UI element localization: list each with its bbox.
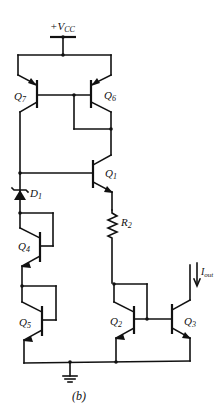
circuit-diagram: +VCC Q7 Q6 Q1 (0, 0, 223, 414)
transistor-q4: Q4 (18, 213, 53, 286)
figure-caption: (b) (72, 389, 86, 403)
svg-text:Q2: Q2 (110, 315, 122, 329)
ground-icon (63, 362, 77, 382)
svg-text:Q6: Q6 (104, 89, 116, 103)
svg-text:Q3: Q3 (184, 315, 196, 329)
svg-text:D1: D1 (29, 187, 42, 201)
svg-text:Q5: Q5 (19, 316, 31, 330)
zener-d1: D1 (12, 174, 42, 213)
svg-text:+VCC: +VCC (50, 20, 75, 34)
transistor-q1: Q1 (93, 155, 117, 210)
ground-rail (24, 361, 190, 363)
svg-text:Iout: Iout (200, 266, 214, 279)
svg-text:Q1: Q1 (105, 167, 117, 181)
transistor-q5: Q5 (19, 286, 56, 363)
transistor-q7: Q7 (14, 55, 37, 174)
transistor-q6: Q6 (91, 55, 116, 155)
svg-text:Q4: Q4 (18, 240, 30, 254)
resistor-r2: R2 (108, 210, 132, 283)
svg-text:R2: R2 (120, 216, 132, 230)
transistor-q3: Q3 (172, 265, 196, 361)
svg-text:Q7: Q7 (14, 90, 27, 104)
vcc-supply: +VCC (50, 20, 76, 57)
output-current-indicator: Iout (194, 263, 214, 286)
transistor-q2: Q2 (110, 282, 147, 362)
